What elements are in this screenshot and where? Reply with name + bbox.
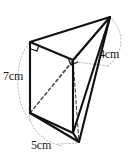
dimension-label-height: 7cm (3, 70, 23, 82)
edge-apex-bottommid (73, 17, 110, 133)
guide-leader-depth (76, 62, 108, 66)
hidden-edges (30, 17, 110, 142)
dimension-label-base: 5cm (31, 139, 51, 151)
guide-leader-base (58, 143, 78, 144)
visible-edges (30, 17, 110, 142)
dimension-label-depth: 4cm (99, 48, 119, 60)
geometry-figure-container: 7cm 4cm 5cm (0, 0, 135, 157)
hidden-edge-bottomleft-midback (30, 60, 73, 113)
